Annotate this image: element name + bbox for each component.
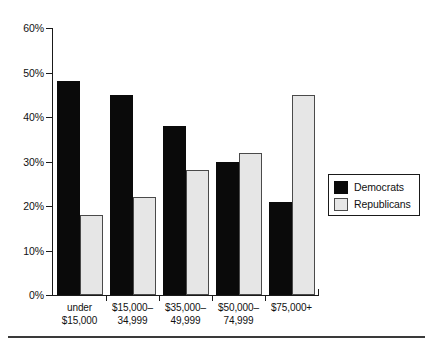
bottom-divider-rule [8,336,425,338]
y-axis-tick-label: 30% [0,157,44,167]
x-axis-group-label-line: 34,999 [106,315,159,328]
y-axis-tick [46,73,53,74]
x-axis-right-cap [318,289,319,295]
legend-item-republicans[interactable]: Republicans [334,196,419,212]
y-axis-tick-label: 20% [0,201,44,211]
bar-republicans [186,170,209,295]
x-axis-tick [212,296,213,301]
y-axis-tick [46,117,53,118]
y-axis-tick-label: 40% [0,112,44,122]
bar-democrats [216,162,239,296]
x-axis-tick [159,296,160,301]
y-axis-tick-label: 10% [0,246,44,256]
legend-item-label: Democrats [354,182,404,193]
bar-republicans [80,215,103,295]
x-axis-group-label-line: $35,000– [159,302,212,315]
x-axis-group-label: $75,000+ [265,302,318,315]
x-axis-line [52,295,319,296]
bar-republicans [133,197,156,295]
x-axis-group-label: $15,000–34,999 [106,302,159,327]
x-axis-group-label: $35,000–49,999 [159,302,212,327]
x-axis-tick [106,296,107,301]
x-axis-tick [265,296,266,301]
bar-chart-figure: 60%50%40%30%20%10%0% under$15,000$15,000… [0,0,433,345]
bar-republicans [292,95,315,295]
x-axis-group-label: $50,000–74,999 [212,302,265,327]
legend-item-democrats[interactable]: Democrats [334,179,419,195]
bar-democrats [110,95,133,295]
y-axis-tick [46,206,53,207]
bar-democrats [269,202,292,295]
plot-area [53,28,318,295]
y-axis-tick [46,28,53,29]
chart-legend: DemocratsRepublicans [328,174,420,216]
legend-swatch-icon [334,198,348,211]
x-axis-group-label-line: $15,000 [53,315,106,328]
y-axis-tick-label: 50% [0,68,44,78]
y-axis-tick-label: 60% [0,23,44,33]
y-axis-tick [46,162,53,163]
x-axis-group-label-line: 49,999 [159,315,212,328]
bar-republicans [239,153,262,295]
x-axis-group-label-line: $50,000– [212,302,265,315]
x-axis-group-label-line: 74,999 [212,315,265,328]
bar-democrats [57,81,80,295]
x-axis-group-label-line: $15,000– [106,302,159,315]
bar-democrats [163,126,186,295]
x-axis-group-label-line: $75,000+ [265,302,318,315]
x-axis-group-label: under$15,000 [53,302,106,327]
legend-item-label: Republicans [354,199,411,210]
x-axis-group-label-line: under [53,302,106,315]
y-axis-tick-label: 0% [0,290,44,300]
legend-swatch-icon [334,181,348,194]
y-axis-tick [46,251,53,252]
